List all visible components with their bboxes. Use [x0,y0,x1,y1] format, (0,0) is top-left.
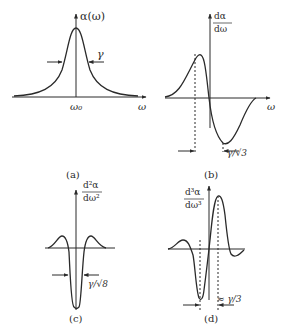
caption-b: (b) [204,169,218,180]
ylabel-c-num: d²α [83,180,98,190]
third-derivative-curve [168,196,244,299]
ylabel-d-den: dω³ [185,200,202,210]
width-label-b: γ/√3 [227,148,247,158]
ylabel-b-num: dα [214,11,226,21]
panel-b [165,14,270,152]
caption-c: (c) [69,313,83,324]
caption-d: (d) [204,313,218,324]
second-derivative-curve [48,236,106,309]
ylabel-d-num: d³α [185,187,200,197]
ylabel-b-den: dω [214,24,227,34]
center-tick-a: ω₀ [70,101,82,112]
derivative-diagram: α(ω) γ ω₀ ω (a) dα dω γ/√3 ω (b) d²α dω²… [0,0,283,332]
caption-a: (a) [66,169,80,180]
width-label-c: γ/√8 [88,279,108,289]
xlabel-b: ω [267,101,275,112]
panel-c [45,190,115,310]
xlabel-a: ω [138,101,146,112]
panel-d [168,186,245,310]
width-label-d: ≈ γ/3 [217,294,242,304]
ylabel-c-den: dω² [83,193,100,203]
ylabel-a: α(ω) [80,10,105,23]
width-label-a: γ [97,48,104,61]
panel-a [12,14,146,97]
